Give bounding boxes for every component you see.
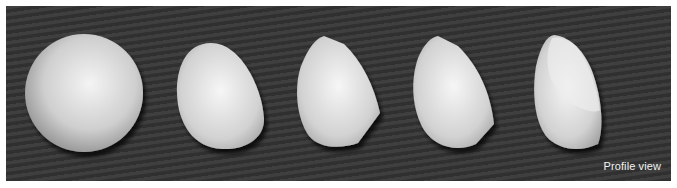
shapes-canvas — [6, 6, 671, 181]
faceted-egg-shape — [297, 36, 380, 147]
sphere-shape — [25, 34, 143, 152]
egg-shape — [177, 43, 264, 149]
render-panel: Profile view — [6, 6, 671, 181]
cut-egg-shape — [413, 36, 494, 148]
profile-view-label: Profile view — [604, 160, 661, 172]
